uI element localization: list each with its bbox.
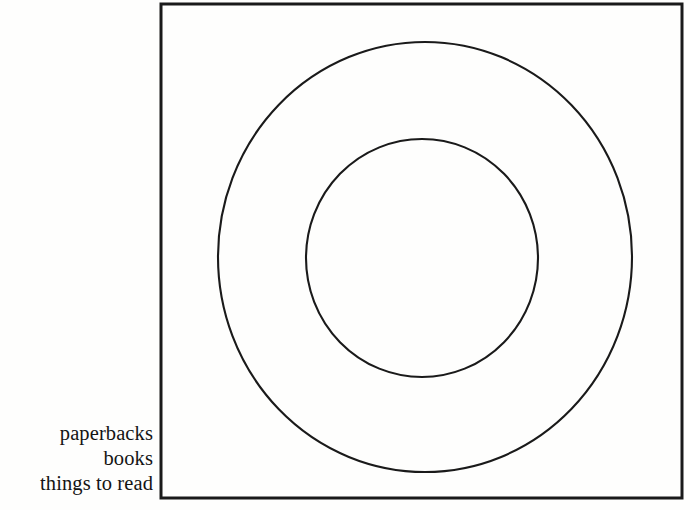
label-books: books: [0, 446, 153, 471]
label-stack: paperbacks books things to read: [0, 421, 153, 496]
outer-circle: [218, 42, 632, 472]
diagram-figure: paperbacks books things to read: [0, 0, 690, 510]
label-things-to-read: things to read: [0, 471, 153, 496]
inner-circle: [306, 139, 538, 377]
universe-box: [161, 4, 682, 498]
label-paperbacks: paperbacks: [0, 421, 153, 446]
